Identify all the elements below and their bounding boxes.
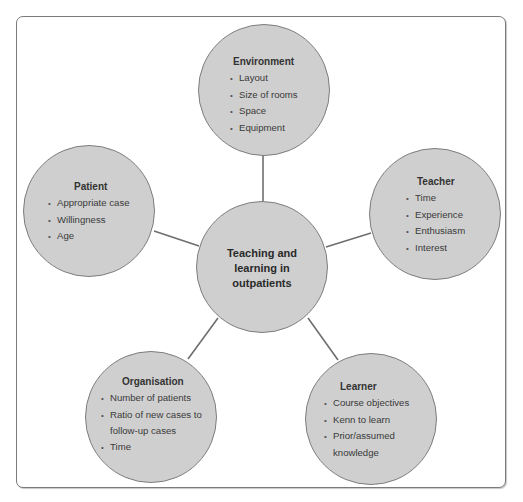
list-item: •Appropriate case: [48, 195, 154, 212]
list-item: knowledge: [324, 445, 436, 461]
connector-learner: [308, 318, 338, 360]
node-organisation: Organisation •Number of patients •Ratio …: [85, 351, 217, 483]
list-item: follow-up cases: [101, 423, 216, 439]
node-items: •Layout •Size of rooms •Space •Equipment: [230, 70, 329, 136]
list-item: •Equipment: [230, 120, 329, 137]
node-items: •Time •Experience •Enthusiasm •Interest: [406, 190, 500, 256]
connector-organisation: [188, 318, 218, 359]
node-items: •Number of patients •Ratio of new cases …: [101, 390, 216, 455]
list-item: •Space: [230, 103, 329, 120]
node-title: Patient: [48, 181, 154, 192]
list-item: •Number of patients: [101, 390, 216, 407]
list-item: •Course objectives: [324, 395, 436, 412]
list-item: •Ratio of new cases to: [101, 407, 216, 424]
list-item: •Layout: [230, 70, 329, 87]
list-item: •Willingness: [48, 212, 154, 229]
connector-teacher: [326, 233, 371, 247]
node-center: Teaching and learning in outpatients: [196, 201, 328, 333]
list-item: •Size of rooms: [230, 87, 329, 104]
node-title: Organisation: [101, 376, 216, 387]
node-learner: Learner •Course objectives •Kenn to lear…: [305, 353, 437, 485]
bullet-icon: •: [101, 391, 110, 407]
bullet-icon: •: [406, 208, 415, 224]
bullet-icon: •: [324, 429, 333, 445]
bullet-icon: •: [406, 224, 415, 240]
node-environment: Environment •Layout •Size of rooms •Spac…: [198, 24, 330, 156]
node-items: •Course objectives •Kenn to learn •Prior…: [324, 395, 436, 460]
bullet-icon: •: [101, 408, 110, 424]
bullet-icon: •: [324, 396, 333, 412]
node-items: •Appropriate case •Willingness •Age: [48, 195, 154, 245]
bullet-icon: •: [101, 440, 110, 456]
node-patient: Patient •Appropriate case •Willingness •…: [23, 145, 155, 277]
bullet-icon: •: [230, 71, 239, 87]
node-title: Learner: [324, 381, 436, 392]
list-item: •Kenn to learn: [324, 412, 436, 429]
connector-patient: [154, 231, 199, 246]
bullet-icon: •: [406, 241, 415, 257]
list-item: •Time: [101, 439, 216, 456]
list-item: •Time: [406, 190, 500, 207]
bullet-icon: •: [48, 229, 57, 245]
node-teacher: Teacher •Time •Experience •Enthusiasm •I…: [369, 148, 501, 280]
list-item: •Interest: [406, 240, 500, 257]
node-title: Teacher: [406, 176, 500, 187]
bullet-icon: •: [230, 121, 239, 137]
center-title: Teaching and learning in outpatients: [197, 246, 327, 291]
bullet-icon: •: [230, 88, 239, 104]
bullet-icon: •: [406, 191, 415, 207]
bullet-icon: •: [48, 213, 57, 229]
list-item: •Prior/assumed: [324, 428, 436, 445]
list-item: •Age: [48, 228, 154, 245]
bullet-icon: •: [324, 413, 333, 429]
bullet-icon: •: [48, 196, 57, 212]
list-item: •Experience: [406, 207, 500, 224]
bullet-icon: •: [230, 104, 239, 120]
node-title: Environment: [230, 56, 329, 67]
list-item: •Enthusiasm: [406, 223, 500, 240]
